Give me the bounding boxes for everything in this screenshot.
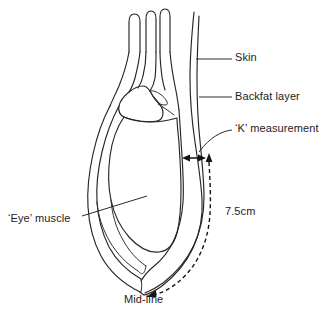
skin-line [144,12,202,295]
label-backfat-layer: Backfat layer [235,90,300,103]
lateral-fat-face [141,110,183,281]
label-skin: Skin [235,51,257,64]
k-arrow-head-left [182,155,190,162]
carcass-inner-fascia-line [97,106,141,279]
distance-arrow-head-top [206,153,213,162]
vertebral-body-shape [119,86,174,122]
label-eye-muscle: ‘Eye’ muscle [8,212,71,225]
eye-muscle-outline [109,117,181,252]
label-midline: Mid-line [124,293,163,306]
spinous-process-prongs [129,9,170,52]
label-distance-7-5cm: 7.5cm [225,205,255,218]
leader-line-k-measurement [199,130,232,152]
carcass-cross-section-figure: Skin Backfat layer ‘K’ measurement ‘Eye’… [0,0,331,315]
carcass-outer-boundary [88,106,140,292]
label-k-measurement: ‘K’ measurement [235,122,319,135]
leader-lines-group [82,59,232,216]
carcass-diagram-svg [0,0,331,315]
